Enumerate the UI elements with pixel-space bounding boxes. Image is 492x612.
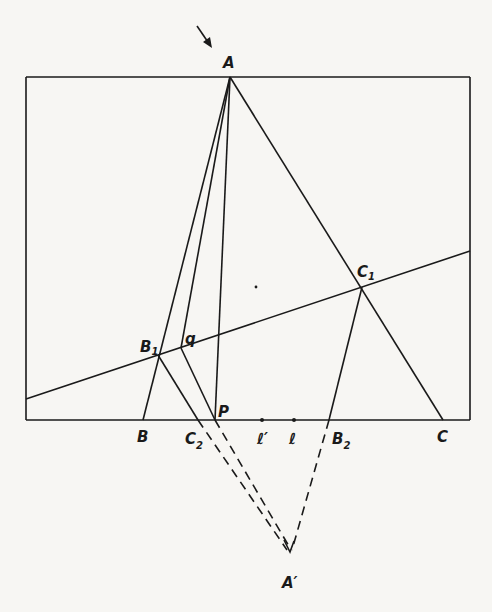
label-B1: B1 [140,338,158,357]
pointer-arrow-icon [197,26,212,48]
label-l: ℓ [288,430,296,448]
label-B: B [137,428,148,446]
line-B1C2 [158,355,198,420]
dashed-B2-Ap [292,420,329,550]
label-C2: C2 [185,430,203,451]
tick-lp [260,418,264,422]
dashed-C2-Ap [198,420,287,550]
dashed-P-Ap [215,420,290,548]
label-lp: ℓ′ [256,430,268,448]
geometry-diagram: A B C B1 C1 q P C2 ℓ′ ℓ B2 A′ [0,0,492,612]
frame-rectangle [26,77,470,420]
stray-dot [255,286,258,289]
label-B2: B2 [332,430,350,451]
Ap-arrowhead-icon [284,540,294,552]
label-C1: C1 [357,263,375,282]
line-Aq [181,77,230,348]
label-P: P [218,403,229,421]
transversal-line [26,251,470,399]
line-qP [181,348,215,420]
label-C: C [437,428,448,446]
line-C1B2 [329,287,362,420]
line-AC [230,77,443,420]
label-q: q [185,330,196,348]
tick-l [292,418,296,422]
label-Ap: A′ [281,574,298,592]
label-A: A [222,54,235,72]
